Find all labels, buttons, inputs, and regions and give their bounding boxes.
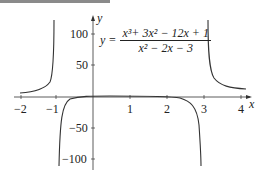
equation-label: y = x³+ 3x² − 12x + 1 x² − 2x − 3 [100, 26, 211, 55]
y-tick-label: −100 [62, 152, 87, 166]
x-tick-label: 1 [127, 102, 133, 116]
y-axis-label: y [96, 11, 103, 25]
x-tick-label: −2 [14, 102, 27, 116]
x-tick-label: 2 [164, 102, 170, 116]
y-tick-label: 50 [76, 58, 88, 72]
curve-right-branch [208, 20, 246, 89]
y-axis-arrow-icon [91, 15, 95, 21]
equation-lhs: y = [100, 33, 116, 48]
curve-left-branch [20, 20, 54, 93]
x-tick-label: 3 [201, 102, 207, 116]
equation-fraction: x³+ 3x² − 12x + 1 x² − 2x − 3 [120, 26, 210, 55]
y-tick-label: 100 [70, 27, 88, 41]
x-axis-label: x [248, 97, 255, 111]
x-tick-label: 4 [238, 102, 244, 116]
equation-denominator: x² − 2x − 3 [136, 41, 194, 55]
x-tick-label: −1 [46, 102, 59, 116]
equation-numerator: x³+ 3x² − 12x + 1 [120, 26, 210, 41]
y-tick-label: −50 [69, 121, 88, 135]
